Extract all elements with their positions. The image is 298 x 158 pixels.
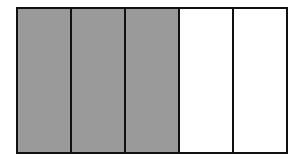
unshaded-part [234,9,286,152]
fraction-bar [16,7,288,154]
shaded-part [126,9,180,152]
shaded-part [18,9,72,152]
unshaded-part [180,9,234,152]
shaded-part [72,9,126,152]
